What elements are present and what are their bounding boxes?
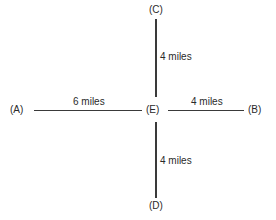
edge-e-b — [168, 110, 244, 111]
edge-e-d-label: 4 miles — [160, 155, 192, 167]
edge-e-d — [155, 122, 157, 198]
node-a-label: (A) — [10, 104, 23, 116]
edge-c-e-label: 4 miles — [160, 51, 192, 63]
edge-e-b-label: 4 miles — [191, 96, 223, 108]
node-e-label: (E) — [146, 104, 159, 116]
node-c-label: (C) — [149, 4, 163, 16]
edge-a-e-label: 6 miles — [73, 96, 105, 108]
node-d-label: (D) — [149, 200, 163, 212]
edge-a-e — [34, 110, 142, 111]
node-b-label: (B) — [248, 104, 261, 116]
edge-c-e — [155, 19, 157, 97]
